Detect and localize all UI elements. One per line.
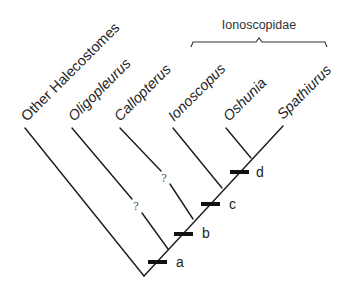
- tree-branches: [25, 126, 283, 276]
- node-label-a: a: [176, 254, 184, 270]
- branch-callopterus-lower: [170, 184, 193, 219]
- group-label-ionoscopidae: Ionoscopidae: [222, 18, 296, 32]
- ionoscopidae-brace: [191, 38, 327, 47]
- taxon-label-spathiurus: Spathiurus: [274, 62, 334, 122]
- branch-spine: [144, 126, 283, 276]
- taxon-label-ionoscopus: Ionoscopus: [165, 60, 229, 124]
- node-label-c: c: [229, 196, 236, 212]
- node-label-b: b: [202, 225, 210, 241]
- uncertain-mark-callopterus: ?: [161, 172, 167, 185]
- branch-oligopleurus-lower: [142, 213, 168, 249]
- uncertain-mark-oligopleurus: ?: [133, 200, 139, 213]
- branch-other-halecostomes: [25, 128, 144, 276]
- taxon-label-oshunia: Oshunia: [220, 75, 270, 125]
- cladogram: Ionoscopidae ? ? a b c d Other Halecosto…: [0, 0, 348, 300]
- branch-ionoscopus: [173, 128, 222, 188]
- node-label-d: d: [256, 164, 264, 180]
- branch-oshunia: [226, 128, 251, 158]
- branch-oligopleurus-upper: [72, 128, 132, 199]
- branch-callopterus-upper: [120, 128, 161, 171]
